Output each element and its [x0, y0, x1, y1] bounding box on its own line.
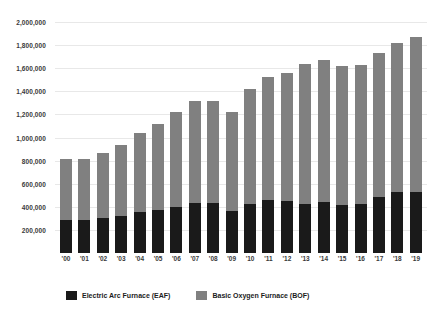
- x-tick-label: '06: [170, 255, 182, 269]
- bar-segment-eaf[interactable]: [60, 220, 72, 253]
- bar-segment-bof[interactable]: [97, 153, 109, 218]
- bar-segment-eaf[interactable]: [373, 197, 385, 253]
- bar-segment-eaf[interactable]: [226, 211, 238, 253]
- y-tick-label: 400,000: [22, 203, 46, 210]
- bar-column[interactable]: [318, 22, 330, 253]
- x-tick-label: '19: [410, 255, 422, 269]
- x-tick-label: '11: [262, 255, 274, 269]
- x-tick-label: '17: [373, 255, 385, 269]
- bar-column[interactable]: [391, 22, 403, 253]
- bar-column[interactable]: [373, 22, 385, 253]
- bar-column[interactable]: [134, 22, 146, 253]
- bar-column[interactable]: [97, 22, 109, 253]
- bar-segment-eaf[interactable]: [170, 207, 182, 253]
- y-tick-label: 1,400,000: [16, 88, 46, 95]
- bar-segment-bof[interactable]: [262, 77, 274, 200]
- bar-column[interactable]: [299, 22, 311, 253]
- bar-segment-eaf[interactable]: [299, 204, 311, 253]
- y-tick-label: 1,800,000: [16, 42, 46, 49]
- y-tick-label: 1,600,000: [16, 65, 46, 72]
- bar-segment-bof[interactable]: [299, 64, 311, 203]
- legend-label: Electric Arc Furnace (EAF): [82, 292, 170, 299]
- bar-column[interactable]: [355, 22, 367, 253]
- bar-segment-bof[interactable]: [373, 53, 385, 197]
- bar-segment-eaf[interactable]: [262, 200, 274, 253]
- bar-segment-eaf[interactable]: [281, 201, 293, 253]
- y-tick-label: 1,200,000: [16, 111, 46, 118]
- bar-column[interactable]: [336, 22, 348, 253]
- x-tick-label: '07: [189, 255, 201, 269]
- legend-swatch-eaf-icon: [66, 291, 77, 300]
- bar-segment-bof[interactable]: [152, 124, 164, 211]
- y-tick-label: 1,000,000: [16, 134, 46, 141]
- bar-segment-eaf[interactable]: [97, 218, 109, 253]
- bar-column[interactable]: [189, 22, 201, 253]
- bar-segment-bof[interactable]: [318, 60, 330, 202]
- bar-column[interactable]: [226, 22, 238, 253]
- bar-segment-bof[interactable]: [115, 145, 127, 216]
- x-tick-label: '03: [115, 255, 127, 269]
- bar-segment-eaf[interactable]: [410, 192, 422, 253]
- bar-segment-bof[interactable]: [170, 112, 182, 206]
- bar-segment-eaf[interactable]: [134, 212, 146, 253]
- bar-segment-bof[interactable]: [189, 101, 201, 203]
- bar-column[interactable]: [152, 22, 164, 253]
- bar-column[interactable]: [115, 22, 127, 253]
- bar-column[interactable]: [78, 22, 90, 253]
- chart-legend: Electric Arc Furnace (EAF)Basic Oxygen F…: [66, 291, 309, 300]
- bar-segment-bof[interactable]: [391, 43, 403, 191]
- x-axis: '00'01'02'03'04'05'06'07'08'09'10'11'12'…: [55, 255, 427, 269]
- bar-segment-eaf[interactable]: [152, 210, 164, 253]
- bar-column[interactable]: [262, 22, 274, 253]
- legend-swatch-bof-icon: [196, 291, 207, 300]
- bar-column[interactable]: [207, 22, 219, 253]
- legend-item[interactable]: Basic Oxygen Furnace (BOF): [196, 291, 309, 300]
- bar-segment-bof[interactable]: [244, 89, 256, 204]
- bar-segment-bof[interactable]: [78, 159, 90, 220]
- x-tick-label: '12: [281, 255, 293, 269]
- y-tick-label: 600,000: [22, 180, 46, 187]
- bar-series-group: [55, 22, 427, 253]
- bar-segment-eaf[interactable]: [355, 204, 367, 253]
- legend-item[interactable]: Electric Arc Furnace (EAF): [66, 291, 170, 300]
- bar-column[interactable]: [281, 22, 293, 253]
- x-tick-label: '04: [134, 255, 146, 269]
- bar-segment-bof[interactable]: [207, 101, 219, 202]
- bar-segment-bof[interactable]: [355, 65, 367, 204]
- x-tick-label: '02: [97, 255, 109, 269]
- bar-segment-bof[interactable]: [226, 112, 238, 211]
- x-tick-label: '16: [355, 255, 367, 269]
- x-tick-label: '13: [299, 255, 311, 269]
- bar-segment-eaf[interactable]: [391, 192, 403, 253]
- x-tick-label: '18: [391, 255, 403, 269]
- x-tick-label: '09: [226, 255, 238, 269]
- bar-segment-bof[interactable]: [60, 159, 72, 220]
- bar-segment-eaf[interactable]: [115, 216, 127, 253]
- bar-segment-eaf[interactable]: [207, 203, 219, 253]
- bar-segment-bof[interactable]: [281, 73, 293, 201]
- y-tick-label: 2,000,000: [16, 19, 46, 26]
- bar-segment-bof[interactable]: [336, 66, 348, 205]
- bar-column[interactable]: [244, 22, 256, 253]
- bar-segment-eaf[interactable]: [336, 205, 348, 253]
- x-tick-label: '15: [336, 255, 348, 269]
- y-tick-label: 200,000: [22, 226, 46, 233]
- bar-segment-bof[interactable]: [134, 133, 146, 212]
- bar-segment-eaf[interactable]: [78, 220, 90, 253]
- stacked-bar-chart: 2,000,0001,800,0001,600,0001,400,0001,20…: [0, 0, 441, 321]
- bar-segment-eaf[interactable]: [318, 202, 330, 253]
- bar-column[interactable]: [170, 22, 182, 253]
- x-tick-label: '10: [244, 255, 256, 269]
- x-tick-label: '01: [78, 255, 90, 269]
- legend-label: Basic Oxygen Furnace (BOF): [212, 292, 309, 299]
- bar-segment-eaf[interactable]: [189, 203, 201, 253]
- y-tick-label: 800,000: [22, 157, 46, 164]
- x-tick-label: '14: [318, 255, 330, 269]
- x-tick-label: '05: [152, 255, 164, 269]
- bar-segment-eaf[interactable]: [244, 204, 256, 253]
- bar-column[interactable]: [60, 22, 72, 253]
- bar-segment-bof[interactable]: [410, 37, 422, 191]
- plot-area: [55, 22, 427, 253]
- bar-column[interactable]: [410, 22, 422, 253]
- x-tick-label: '00: [60, 255, 72, 269]
